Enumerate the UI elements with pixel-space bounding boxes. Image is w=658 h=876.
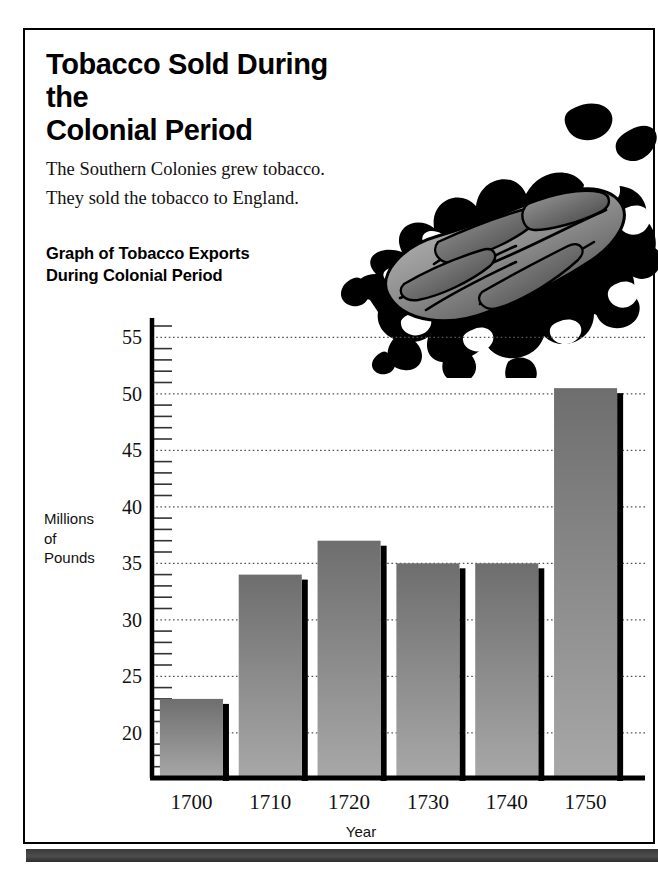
x-tick-label-1730: 1730 [407,790,449,815]
x-tick-label-1700: 1700 [170,790,212,815]
bar-shadow [223,704,229,781]
y-tick-label: 25 [100,665,142,688]
x-tick-label-1710: 1710 [249,790,291,815]
bar-shadow [302,580,308,781]
x-tick-label-1720: 1720 [328,790,370,815]
bar [554,388,617,778]
bar [396,563,459,778]
x-axis-title: Year [32,822,658,842]
y-tick-label: 40 [100,495,142,518]
y-tick-label: 30 [100,608,142,631]
bar [160,699,223,778]
bar-shadow [617,393,623,781]
bar-shadow [381,546,387,781]
y-tick-label: 35 [100,552,142,575]
bar [318,541,381,778]
x-tick-label-1740: 1740 [486,790,528,815]
y-axis-title-line-2: of [44,529,110,549]
bar-shadow [538,568,544,781]
y-tick-label: 45 [100,439,142,462]
y-tick-label: 50 [100,382,142,405]
tobacco-exports-bar-chart [0,0,658,876]
bar [475,563,538,778]
bar [239,575,302,778]
y-tick-label: 20 [100,721,142,744]
x-tick-label-1750: 1750 [565,790,607,815]
y-tick-label: 55 [100,326,142,349]
bar-shadow [459,568,465,781]
